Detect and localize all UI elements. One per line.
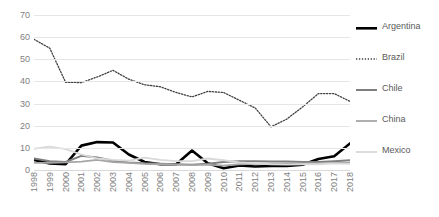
series-layer <box>34 15 350 170</box>
plot-area <box>34 15 350 170</box>
x-axis-tick-label: 2009 <box>203 172 213 192</box>
gridline <box>34 148 350 149</box>
x-axis-tick-label: 1999 <box>45 172 55 192</box>
legend-item-brazil[interactable]: Brazil <box>356 51 405 63</box>
x-axis-tick-label: 2000 <box>61 172 71 192</box>
x-axis-tick-label: 2004 <box>124 172 134 192</box>
gridline <box>34 15 350 16</box>
legend-item-china[interactable]: China <box>356 113 406 125</box>
y-axis-tick-label: 70 <box>2 11 30 20</box>
legend-item-mexico[interactable]: Mexico <box>356 144 411 156</box>
legend-label: Chile <box>382 83 403 93</box>
x-axis-tick-label: 2005 <box>140 172 150 192</box>
legend-item-chile[interactable]: Chile <box>356 82 403 94</box>
legend-label: Mexico <box>382 145 411 155</box>
line-chart: 010203040506070 199819992000200120022003… <box>0 0 439 217</box>
x-axis-tick-label: 2018 <box>345 172 355 192</box>
x-axis-tick-label: 2011 <box>234 172 244 191</box>
x-axis-tick-label: 2014 <box>282 172 292 192</box>
gridline <box>34 37 350 38</box>
y-axis: 010203040506070 <box>0 15 30 170</box>
x-axis-tick-label: 2006 <box>155 172 165 192</box>
legend-item-argentina[interactable]: Argentina <box>356 20 421 32</box>
x-axis-tick-label: 1998 <box>29 172 39 192</box>
axis-baseline <box>34 170 350 171</box>
x-axis-tick-label: 2002 <box>92 172 102 192</box>
x-axis-tick-label: 2012 <box>250 172 260 192</box>
y-axis-tick-label: 20 <box>2 122 30 131</box>
x-axis: 1998199920002001200220032004200520062007… <box>34 172 350 216</box>
gridline <box>34 104 350 105</box>
y-axis-tick-label: 10 <box>2 144 30 153</box>
x-axis-tick-label: 2010 <box>219 172 229 192</box>
legend-label: Argentina <box>382 21 421 31</box>
series-line-brazil <box>34 39 350 126</box>
x-axis-tick-label: 2015 <box>298 172 308 192</box>
x-axis-tick-label: 2007 <box>171 172 181 192</box>
x-axis-tick-label: 2017 <box>329 172 339 192</box>
x-axis-tick-label: 2008 <box>187 172 197 192</box>
y-axis-tick-label: 50 <box>2 55 30 64</box>
gridline <box>34 81 350 82</box>
legend-label: China <box>382 114 406 124</box>
x-axis-tick-label: 2016 <box>313 172 323 192</box>
y-axis-tick-label: 60 <box>2 33 30 42</box>
gridline <box>34 59 350 60</box>
legend-label: Brazil <box>382 52 405 62</box>
y-axis-tick-label: 30 <box>2 100 30 109</box>
chart-legend: ArgentinaBrazilChileChinaMexico <box>356 20 439 172</box>
gridline <box>34 126 350 127</box>
x-axis-tick-label: 2013 <box>266 172 276 192</box>
x-axis-tick-label: 2001 <box>76 172 86 192</box>
y-axis-tick-label: 0 <box>2 166 30 175</box>
y-axis-tick-label: 40 <box>2 77 30 86</box>
x-axis-tick-label: 2003 <box>108 172 118 192</box>
